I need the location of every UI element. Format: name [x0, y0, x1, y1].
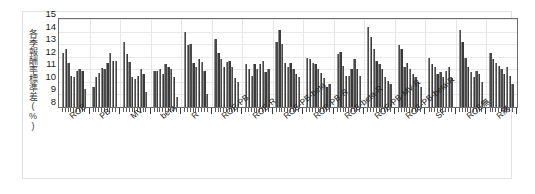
y-tick-label: 11	[38, 59, 56, 69]
y-tick-label: 8	[38, 97, 56, 107]
bar-series	[59, 19, 517, 107]
x-category-label: R	[190, 110, 200, 121]
plot-area	[58, 18, 518, 108]
y-axis-tick-labels: 89101112131415	[38, 14, 56, 108]
bar	[115, 61, 117, 108]
x-axis-category-labels: ROEPBMVbetaRROE-PBROE-RROE-PB-betaROE-PB…	[58, 112, 528, 182]
y-axis-title: 各季報酬率標準差(%)	[22, 14, 38, 146]
y-tick-label: 10	[38, 72, 56, 82]
y-tick-label: 15	[38, 9, 56, 19]
bar	[176, 97, 178, 107]
y-tick-label: 14	[38, 22, 56, 32]
bar	[206, 94, 208, 107]
bar	[145, 92, 147, 107]
bar	[511, 84, 513, 107]
chart-figure: 各季報酬率標準差(%) 89101112131415 ROEPBMVbetaRR…	[0, 0, 535, 194]
y-tick-label: 9	[38, 84, 56, 94]
y-tick-label: 13	[38, 34, 56, 44]
y-tick-label: 12	[38, 47, 56, 57]
